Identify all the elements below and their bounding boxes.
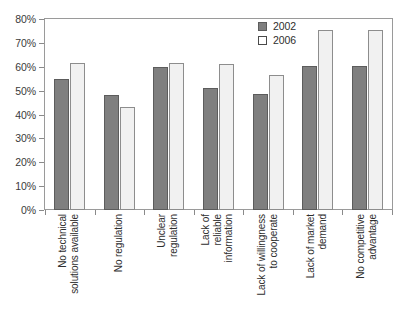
x-axis-category: No competitive advantage <box>341 214 391 316</box>
bar-2002-2 <box>153 67 168 210</box>
x-axis-labels: No technical solutions availableNo regul… <box>44 214 393 316</box>
bar-2002-4 <box>253 94 268 210</box>
y-axis-tick-label: 10% <box>15 181 36 191</box>
y-axis-tick-label: 40% <box>15 110 36 120</box>
x-axis-category: Unclear regulation <box>143 214 193 316</box>
y-axis-tick-label: 70% <box>15 38 36 48</box>
x-axis-category: No technical solutions available <box>44 214 94 316</box>
bar-2002-6 <box>352 66 367 210</box>
y-axis-tick-label: 20% <box>15 157 36 167</box>
chart-legend: 20022006 <box>258 20 328 48</box>
x-axis-category: Lack of market demand <box>292 214 342 316</box>
bar-2006-0 <box>70 63 85 210</box>
bar-group <box>194 19 244 210</box>
y-axis-tick-label: 60% <box>15 62 36 72</box>
bar-2002-3 <box>203 88 218 210</box>
bar-group <box>342 19 392 210</box>
bar-chart: 0%10%20%30%40%50%60%70%80% No technical … <box>0 0 407 316</box>
x-axis-category-label: Lack of market demand <box>305 214 328 278</box>
legend-label: 2006 <box>273 35 296 46</box>
bar-2006-3 <box>219 64 234 210</box>
legend-swatch-2002 <box>258 22 267 31</box>
x-axis-category: Lack of willingness to cooperate <box>242 214 292 316</box>
bar-2006-4 <box>269 75 284 210</box>
y-axis-tick-label: 50% <box>15 86 36 96</box>
y-axis-tick-label: 80% <box>15 14 36 24</box>
y-axis-tick-label: 30% <box>15 133 36 143</box>
legend-label: 2002 <box>273 21 296 32</box>
x-axis-category: No regulation <box>94 214 144 316</box>
bar-2006-5 <box>318 30 333 210</box>
legend-swatch-2006 <box>258 36 267 45</box>
bar-2002-5 <box>302 66 317 210</box>
bar-group <box>95 19 145 210</box>
y-axis-tick-label: 0% <box>21 205 36 215</box>
bars-layer <box>45 19 392 210</box>
x-axis-category-label: No regulation <box>113 214 125 272</box>
bar-2002-1 <box>104 95 119 210</box>
x-axis-category-label: Unclear regulation <box>156 214 179 257</box>
x-axis-category: Lack of reliable information <box>193 214 243 316</box>
legend-entry: 2002 <box>258 20 328 33</box>
bar-group <box>45 19 95 210</box>
bar-2006-1 <box>120 107 135 210</box>
y-axis: 0%10%20%30%40%50%60%70%80% <box>0 0 44 316</box>
bar-group <box>144 19 194 210</box>
legend-entry: 2006 <box>258 34 328 47</box>
x-axis-category-label: No competitive advantage <box>355 214 378 279</box>
x-axis-category-label: Lack of reliable information <box>200 214 235 262</box>
bar-2006-6 <box>368 30 383 210</box>
x-axis-category-label: No technical solutions available <box>57 214 80 294</box>
bar-2002-0 <box>54 79 69 210</box>
x-axis-category-label: Lack of willingness to cooperate <box>256 214 279 295</box>
bar-2006-2 <box>169 63 184 210</box>
